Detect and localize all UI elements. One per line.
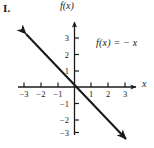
coordinate-plane-plot: −3 −2 −1 1 2 3 3 2 1 −1 (0, 0, 154, 148)
x-tick-label-pos3: 3 (123, 89, 127, 99)
x-tick-label-neg2: −2 (36, 89, 45, 99)
x-tick-label-pos1: 1 (89, 89, 93, 99)
x-tick-label-neg3: −3 (19, 89, 28, 99)
x-axis: −3 −2 −1 1 2 3 (18, 83, 136, 100)
y-tick-label-neg2: −2 (60, 115, 69, 125)
y-axis-tick-labels: 3 2 1 −1 −2 −3 (60, 33, 69, 138)
x-axis-tick-labels: −3 −2 −1 1 2 3 (19, 89, 127, 99)
graph-figure: I. f(x) x f(x) = − x −3 (0, 0, 154, 148)
x-tick-label-neg1: −1 (53, 89, 62, 99)
y-tick-label-neg1: −1 (60, 99, 69, 109)
y-tick-label-pos3: 3 (65, 33, 69, 43)
x-tick-label-pos2: 2 (106, 89, 110, 99)
y-tick-label-neg3: −3 (60, 128, 69, 138)
y-tick-label-pos2: 2 (65, 50, 69, 60)
